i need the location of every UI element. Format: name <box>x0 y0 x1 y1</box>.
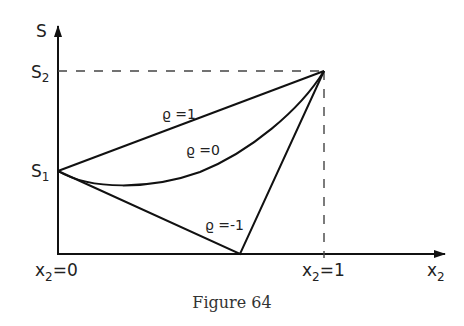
y-axis-label: S <box>36 21 47 41</box>
figure-caption: Figure 64 <box>192 293 271 312</box>
label-rho-0: ϱ =0 <box>186 142 220 158</box>
curve-rho-minus-1 <box>58 71 324 254</box>
label-rho-1: ϱ =1 <box>162 106 196 122</box>
y-tick-s2: S2 <box>31 62 49 85</box>
curve-rho-0 <box>58 71 324 185</box>
x-axis-label: x2 <box>427 260 445 284</box>
x-tick-0: x2=0 <box>35 260 78 284</box>
label-rho-minus-1: ϱ =-1 <box>205 217 244 233</box>
x-tick-1: x2=1 <box>302 260 345 284</box>
figure-canvas: S S2 S1 x2=0 x2=1 x2 ϱ =1 ϱ =0 ϱ =-1 Fig… <box>0 0 464 326</box>
y-tick-s1: S1 <box>31 161 49 184</box>
